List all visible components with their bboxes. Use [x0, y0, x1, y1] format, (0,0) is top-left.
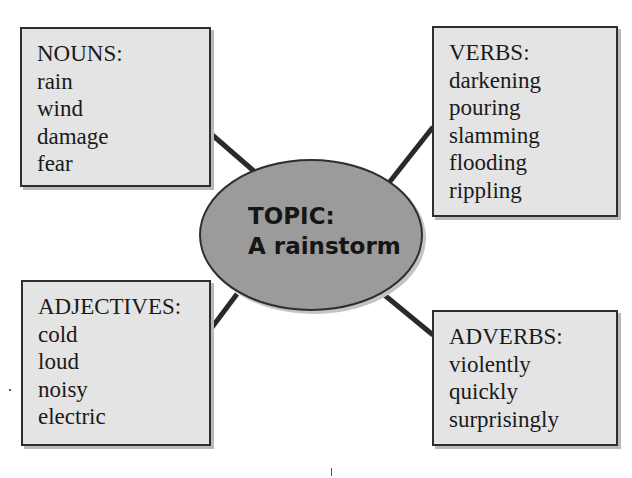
adverb-item: quickly: [449, 378, 616, 406]
verb-item: rippling: [449, 177, 616, 205]
connector-nouns: [210, 133, 255, 172]
adverb-item: violently: [449, 351, 616, 379]
noun-item: rain: [37, 68, 209, 96]
adjective-item: electric: [38, 403, 209, 431]
topic-text: TOPIC: A rainstorm: [248, 201, 401, 261]
noun-item: fear: [37, 150, 209, 178]
adjectives-box: ADJECTIVES: cold loud noisy electric: [21, 280, 211, 446]
word-web-diagram: TOPIC: A rainstorm NOUNS: rain wind dama…: [0, 0, 632, 478]
connector-verbs: [388, 127, 433, 184]
adverbs-label: ADVERBS:: [449, 323, 616, 351]
topic-label: TOPIC:: [248, 201, 401, 231]
verb-item: darkening: [449, 67, 616, 95]
adjective-item: noisy: [38, 376, 209, 404]
adverb-item: surprisingly: [449, 406, 616, 434]
connector-adjectives: [210, 294, 237, 330]
adjective-item: cold: [38, 321, 209, 349]
adjectives-label: ADJECTIVES:: [38, 293, 209, 321]
verb-item: slamming: [449, 122, 616, 150]
noun-item: damage: [37, 123, 209, 151]
nouns-label: NOUNS:: [37, 40, 209, 68]
topic-value: A rainstorm: [248, 231, 401, 261]
connector-adverbs: [382, 293, 433, 335]
verbs-box: VERBS: darkening pouring slamming floodi…: [432, 26, 618, 217]
adverbs-box: ADVERBS: violently quickly surprisingly: [432, 310, 618, 446]
adjective-item: loud: [38, 348, 209, 376]
verb-item: flooding: [449, 149, 616, 177]
noun-item: wind: [37, 95, 209, 123]
scan-artifact-tick: [331, 468, 332, 476]
nouns-box: NOUNS: rain wind damage fear: [20, 27, 211, 187]
verb-item: pouring: [449, 94, 616, 122]
scan-artifact-dot: [9, 389, 11, 391]
verbs-label: VERBS:: [449, 39, 616, 67]
